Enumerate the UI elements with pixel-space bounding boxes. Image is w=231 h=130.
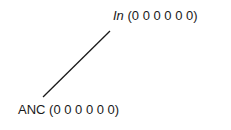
node-in: In (0 0 0 0 0 0) <box>113 8 198 23</box>
node-in-label: In <box>113 8 124 23</box>
edge-in-anc <box>43 31 110 97</box>
node-in-features: (0 0 0 0 0 0) <box>127 8 197 23</box>
node-anc-features: (0 0 0 0 0 0) <box>49 102 119 117</box>
node-anc-label: ANC <box>18 102 45 117</box>
node-anc: ANC (0 0 0 0 0 0) <box>18 102 119 117</box>
